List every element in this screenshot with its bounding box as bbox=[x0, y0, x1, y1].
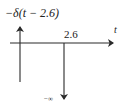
impulse-location-label: 2.6 bbox=[64, 28, 78, 40]
impulse-diagram: −δ(t − 2.6) t 2.6 −∞ bbox=[0, 0, 124, 109]
time-axis-label: t bbox=[114, 24, 117, 35]
function-label: −δ(t − 2.6) bbox=[5, 6, 59, 20]
impulse-magnitude-label: −∞ bbox=[44, 95, 53, 103]
